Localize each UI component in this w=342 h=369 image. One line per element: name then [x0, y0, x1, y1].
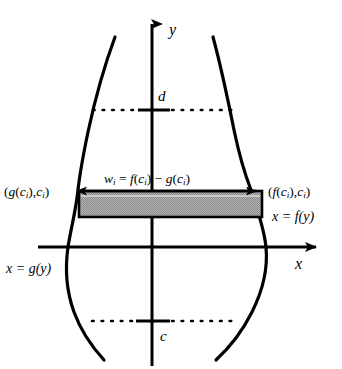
- width-annotation-label: wi = f(ci) − g(ci): [104, 172, 190, 187]
- math-diagram: y x d c wi = f(ci) − g(ci) (g(ci),ci) (f…: [0, 0, 342, 369]
- left-paren-close: ): [45, 184, 50, 199]
- point-label-left: (g(ci),ci): [4, 185, 49, 200]
- width-w: w: [104, 171, 113, 186]
- right-paren-close: ): [306, 184, 311, 199]
- rectangle-fill: [79, 191, 262, 217]
- width-paren-close-2: ): [185, 171, 190, 186]
- curve-label-left: x = g(y): [6, 262, 51, 276]
- left-paren-close-2: ),: [28, 184, 36, 199]
- tick-label-d: d: [158, 89, 166, 104]
- curve-label-right: x = f(y): [272, 210, 314, 224]
- x-axis-label: x: [295, 256, 302, 272]
- y-axis-label: y: [169, 22, 176, 38]
- tick-label-c: c: [160, 329, 167, 344]
- width-minus: −: [151, 171, 165, 186]
- width-equals: =: [116, 171, 130, 186]
- point-label-right: (f(ci),ci): [268, 185, 310, 200]
- representative-rectangle: [79, 191, 262, 217]
